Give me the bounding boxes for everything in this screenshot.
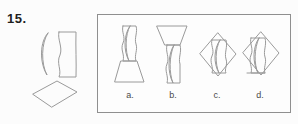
option-c-label[interactable]: c. <box>208 90 226 100</box>
option-d-label[interactable]: d. <box>251 90 269 100</box>
option-b-label[interactable]: b. <box>164 90 182 100</box>
option-c-figure <box>198 32 238 78</box>
option-a-label[interactable]: a. <box>121 90 139 100</box>
option-d[interactable] <box>241 31 281 77</box>
wavy-band <box>166 45 181 83</box>
wavy-band <box>122 26 137 61</box>
option-d-figure <box>241 31 281 77</box>
crescent-shape <box>36 31 52 77</box>
crescent <box>169 45 174 83</box>
diamond-shape <box>31 79 79 109</box>
question-number: 15. <box>7 11 27 26</box>
trapezoid-wide-top <box>157 26 187 45</box>
wavy-band-shape <box>54 30 80 80</box>
crescent <box>215 40 220 73</box>
option-a[interactable] <box>110 24 150 86</box>
option-b[interactable] <box>153 25 193 87</box>
option-b-figure <box>153 25 191 85</box>
trapezoid-wide-base <box>115 61 144 82</box>
option-c[interactable] <box>198 32 238 78</box>
test-question-15: 15. <box>0 0 298 124</box>
crescent <box>125 26 130 61</box>
option-a-figure <box>110 24 148 84</box>
wavy-band <box>250 38 266 73</box>
